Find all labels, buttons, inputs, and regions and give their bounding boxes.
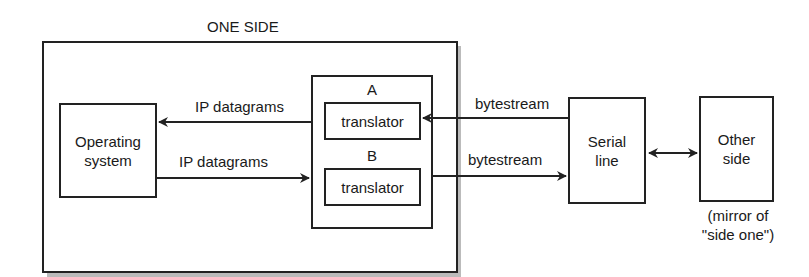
- arrows-layer: [0, 0, 809, 277]
